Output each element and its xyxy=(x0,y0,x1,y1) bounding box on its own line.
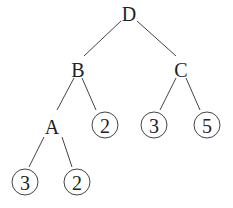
node-a: A xyxy=(45,116,60,138)
node-b: B xyxy=(71,59,84,81)
node-label: B xyxy=(71,59,84,81)
node-label: 3 xyxy=(149,115,159,137)
tree-svg: DBCA23532 xyxy=(0,0,233,208)
node-c: C xyxy=(174,59,187,81)
edge-a-a3 xyxy=(29,137,44,167)
node-label: A xyxy=(45,116,60,138)
node-label: 2 xyxy=(100,115,110,137)
edge-d-b xyxy=(84,21,121,56)
leaf-node-c5: 5 xyxy=(194,112,220,138)
node-label: D xyxy=(122,3,136,25)
leaf-node-a3: 3 xyxy=(12,169,38,195)
leaf-node-a2: 2 xyxy=(64,169,90,195)
leaf-node-b2: 2 xyxy=(92,112,118,138)
edge-c-c3 xyxy=(160,78,176,110)
node-label: 2 xyxy=(72,172,82,194)
node-label: 5 xyxy=(202,115,212,137)
node-d: D xyxy=(122,3,136,25)
edge-b-b2 xyxy=(82,78,96,110)
leaf-node-c3: 3 xyxy=(141,112,167,138)
edge-a-a2 xyxy=(62,137,72,167)
edge-c-c5 xyxy=(186,78,200,110)
tree-diagram: DBCA23532 xyxy=(0,0,233,208)
edge-b-a xyxy=(57,78,74,110)
edges-group xyxy=(29,21,200,167)
nodes-group: DBCA23532 xyxy=(12,3,220,195)
node-label: C xyxy=(174,59,187,81)
node-label: 3 xyxy=(20,172,30,194)
edge-d-c xyxy=(137,21,176,56)
